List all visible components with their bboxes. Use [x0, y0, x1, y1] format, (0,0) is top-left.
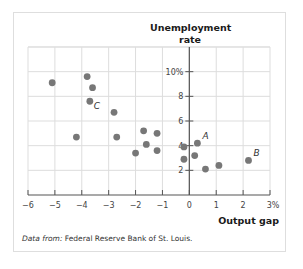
x-axis-title: Output gap [218, 215, 279, 226]
data-point [49, 79, 56, 86]
data-point [73, 134, 80, 141]
x-tick-label: 0 [187, 201, 192, 210]
scatter-plot: −6−5−4−3−2−10123%246810%CAB [0, 0, 303, 269]
y-tick-label: 10% [166, 68, 184, 77]
y-tick-label: 8 [178, 92, 183, 101]
data-point [202, 166, 209, 173]
data-point [191, 152, 198, 159]
data-point [132, 150, 139, 157]
data-point [140, 127, 147, 134]
x-tick-label: −2 [130, 201, 142, 210]
point-label-a: A [201, 131, 208, 141]
data-point [86, 98, 93, 105]
y-tick-label: 6 [178, 117, 183, 126]
x-tick-label: −6 [22, 201, 34, 210]
x-tick-label: 3% [267, 201, 280, 210]
x-tick-label: −1 [157, 201, 169, 210]
data-point [113, 134, 120, 141]
x-tick-label: −4 [76, 201, 88, 210]
data-point [194, 140, 201, 147]
data-point [84, 73, 91, 80]
data-point [245, 157, 252, 164]
point-label-c: C [94, 101, 101, 111]
data-point [143, 141, 150, 148]
x-tick-label: 1 [214, 201, 219, 210]
data-point [216, 162, 223, 169]
x-tick-label: −3 [103, 201, 115, 210]
data-point [181, 144, 188, 151]
data-point [89, 84, 96, 91]
point-label-b: B [253, 148, 259, 158]
data-point [154, 130, 161, 137]
x-tick-label: −5 [49, 201, 61, 210]
data-point [154, 147, 161, 154]
source-text: Federal Reserve Bank of St. Louis. [62, 234, 192, 243]
data-point [111, 109, 118, 116]
data-point [181, 156, 188, 163]
source-note: Data from: Federal Reserve Bank of St. L… [22, 234, 192, 243]
y-tick-label: 2 [178, 166, 183, 175]
source-prefix: Data from: [22, 234, 62, 243]
x-tick-label: 2 [241, 201, 246, 210]
